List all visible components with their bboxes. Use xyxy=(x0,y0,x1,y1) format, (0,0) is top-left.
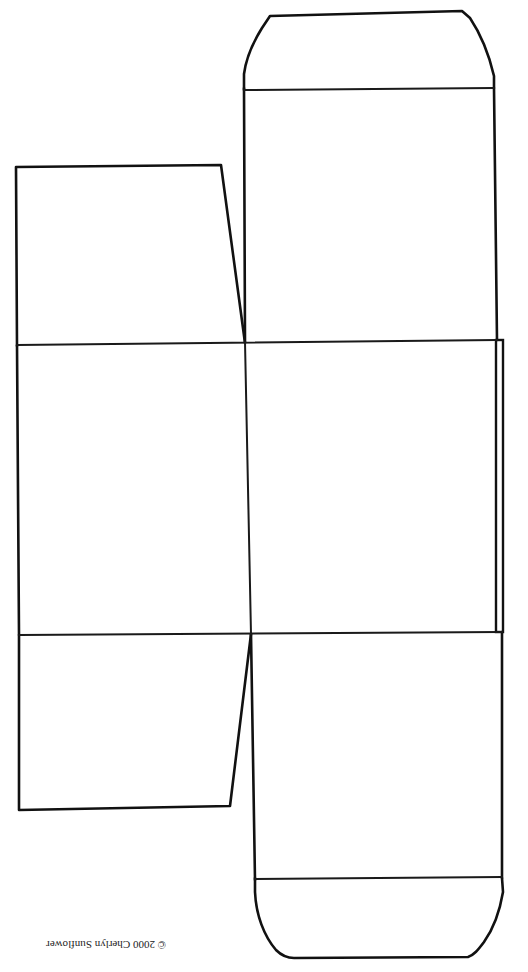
copyright-text: © 2000 Cherlyn Sunflower xyxy=(16,938,166,952)
top-panel-right-edge xyxy=(494,88,497,340)
bottom-panel-left-edge xyxy=(251,634,255,880)
fold-line-center-vertical xyxy=(245,342,251,634)
fold-line-bottom-tab xyxy=(255,877,502,879)
center-left-panel-edge xyxy=(17,345,19,635)
fold-line-lower xyxy=(19,632,502,635)
glue-strip xyxy=(496,340,503,632)
fold-line-upper xyxy=(17,340,497,345)
fold-line-top-tab xyxy=(244,88,494,90)
bottom-tuck-tab xyxy=(255,878,503,958)
left-top-dust-flap xyxy=(16,165,245,346)
top-panel-left-edge xyxy=(244,88,245,342)
top-tuck-tab xyxy=(244,11,494,90)
left-bottom-dust-flap xyxy=(19,634,251,810)
box-net-diagram xyxy=(0,0,528,972)
